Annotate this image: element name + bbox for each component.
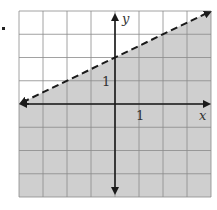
x-axis-label: x — [199, 108, 207, 123]
y-axis-label: y — [121, 11, 130, 26]
y-tick-label: 1 — [102, 74, 110, 89]
inequality-graph: yx11 — [0, 0, 217, 210]
x-tick-label: 1 — [136, 108, 144, 123]
